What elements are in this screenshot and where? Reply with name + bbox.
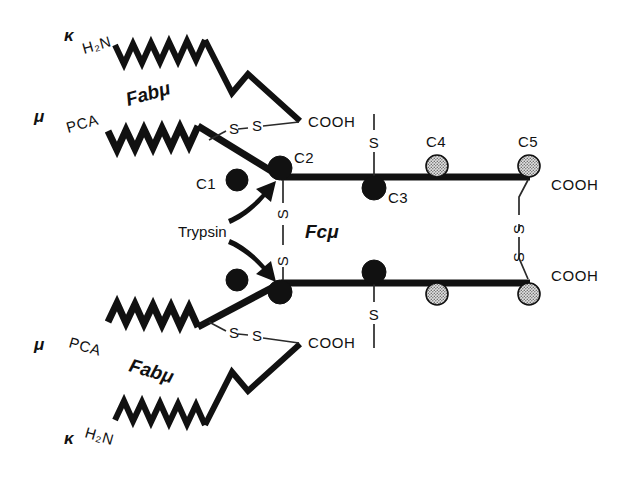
domain-marker-c3-bottom <box>362 260 386 284</box>
label-c4: C4 <box>426 133 446 150</box>
bottom-heavy-chain-cterm-label: COOH <box>551 267 598 284</box>
domain-marker-c5-top <box>518 155 540 177</box>
top-light-chain-type-label: κ <box>64 26 75 45</box>
top-fab-ss-label-left: S <box>229 120 240 137</box>
top-light-chain-cterm-label: COOH <box>308 113 355 130</box>
bottom-light-chain-type-label: κ <box>64 429 75 448</box>
cterm-ss-label-lower: S <box>510 252 527 263</box>
domain-marker-c1-top <box>226 169 248 191</box>
label-c5: C5 <box>518 133 538 150</box>
top-sulfur-label: S <box>369 134 380 151</box>
background <box>0 0 637 484</box>
bottom-sulfur-label: S <box>369 306 380 323</box>
trypsin-label: Trypsin <box>178 223 227 240</box>
domain-marker-c4-bottom <box>426 283 448 305</box>
figure-canvas: S S S S S S <box>0 0 637 484</box>
top-heavy-chain-cterm-label: COOH <box>551 176 598 193</box>
label-c1: C1 <box>196 175 216 192</box>
label-c3: C3 <box>388 189 408 206</box>
domain-marker-c5-bottom <box>518 283 540 305</box>
top-fab-ss-label-right: S <box>252 117 263 134</box>
igm-structure-diagram: S S S S S S <box>0 0 637 484</box>
top-heavy-chain-type-label: μ <box>33 107 45 126</box>
bottom-heavy-chain-type-label: μ <box>33 335 45 354</box>
bottom-light-chain-cterm-label: COOH <box>308 334 355 351</box>
fc-region-label: Fcμ <box>305 221 339 242</box>
bottom-fab-ss-label-left: S <box>229 324 240 341</box>
cterm-ss-label-upper: S <box>510 224 527 235</box>
bottom-fab-ss-label-right: S <box>252 327 263 344</box>
label-c2: C2 <box>294 149 314 166</box>
domain-marker-c2-bottom <box>268 280 292 304</box>
domain-marker-c2-top <box>268 156 292 180</box>
domain-marker-c4-top <box>426 155 448 177</box>
hinge-ss-label-upper: S <box>274 209 291 220</box>
hinge-ss-label-lower: S <box>274 256 291 267</box>
domain-marker-c3-top <box>362 176 386 200</box>
domain-marker-c1-bottom <box>226 269 248 291</box>
